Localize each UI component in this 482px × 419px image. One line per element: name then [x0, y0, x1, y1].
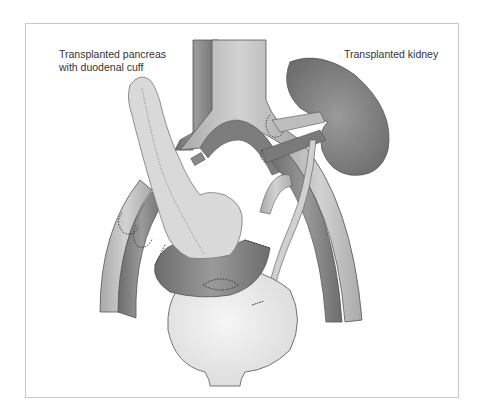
transplanted-kidney: [261, 58, 389, 175]
label-transplanted-kidney: Transplanted kidney: [344, 48, 438, 61]
label-transplanted-pancreas: Transplanted pancreas with duodenal cuff: [59, 48, 166, 74]
label-pancreas-line2: with duodenal cuff: [59, 61, 166, 74]
label-pancreas-line1: Transplanted pancreas: [59, 48, 166, 61]
